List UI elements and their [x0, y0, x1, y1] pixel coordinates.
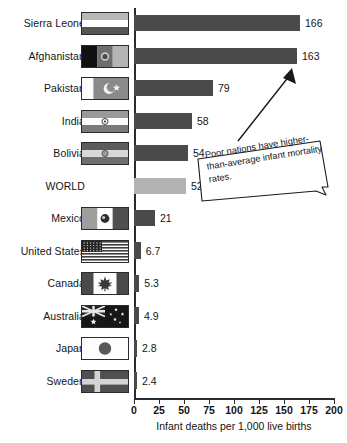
x-tick-label: 75: [203, 404, 215, 416]
x-tick-label: 50: [178, 404, 190, 416]
chart-row: Sweden2.4: [0, 366, 347, 396]
bar: [134, 340, 137, 357]
chart-row: Afghanistan 163: [0, 41, 347, 71]
bar: [134, 48, 297, 64]
x-tick-label: 125: [250, 404, 268, 416]
flag-india-icon: [81, 110, 129, 133]
country-label: Bolivia: [0, 138, 85, 168]
bar: [134, 242, 141, 259]
bar: [134, 275, 139, 292]
bar-value-label: 4.9: [144, 301, 159, 331]
bar-value-label: 6.7: [146, 236, 161, 266]
chart-row: Mexico 21: [0, 203, 347, 233]
bar: [134, 307, 139, 324]
flag-canada-icon: [81, 272, 129, 295]
x-tick-label: 25: [153, 404, 165, 416]
country-label: Japan: [0, 333, 85, 363]
flag-afghanistan-icon: [81, 45, 129, 68]
flag-bolivia-icon: [81, 142, 129, 165]
country-label: WORLD: [0, 171, 85, 201]
country-label: Sierra Leone: [0, 8, 85, 38]
country-label: Pakistan: [0, 73, 85, 103]
bar-value-label: 58: [197, 106, 209, 136]
flag-pakistan-icon: [81, 77, 129, 100]
country-label: Canada: [0, 268, 85, 298]
flag-japan-icon: [81, 337, 129, 360]
chart-row: United States6.7: [0, 236, 347, 266]
bar: [134, 178, 186, 194]
x-tick-label: 0: [131, 404, 137, 416]
bar: [134, 80, 213, 96]
chart-row: Canada 5.3: [0, 268, 347, 298]
bar: [134, 15, 300, 31]
country-label: United States: [0, 236, 85, 266]
bar: [134, 372, 137, 389]
flag-sweden-icon: [81, 370, 129, 393]
flag-mexico-icon: [81, 207, 129, 230]
bar-value-label: 5.3: [144, 268, 159, 298]
flag-united-states-icon: [81, 240, 129, 263]
chart-row: Japan2.8: [0, 333, 347, 363]
chart-row: India 58: [0, 106, 347, 136]
chart-row: Australia4.9: [0, 301, 347, 331]
flag-australia-icon: [81, 305, 129, 328]
chart-row: Pakistan 79: [0, 73, 347, 103]
country-label: Afghanistan: [0, 41, 85, 71]
chart-row: Sierra Leone166: [0, 8, 347, 38]
bar-value-label: 163: [302, 41, 320, 71]
country-label: Mexico: [0, 203, 85, 233]
bar: [134, 210, 155, 226]
bar-value-label: 79: [218, 73, 230, 103]
infant-mortality-bar-chart: Sierra Leone166Afghanistan 163Pakistan 7…: [0, 0, 347, 443]
x-tick-label: 150: [275, 404, 293, 416]
bar: [134, 145, 188, 161]
bar-value-label: 2.8: [142, 333, 157, 363]
flag-sierra-leone-icon: [81, 12, 129, 35]
country-label: Sweden: [0, 366, 85, 396]
country-label: Australia: [0, 301, 85, 331]
country-label: India: [0, 106, 85, 136]
bar-value-label: 21: [160, 203, 172, 233]
bar: [134, 113, 192, 129]
bar-value-label: 166: [305, 8, 323, 38]
bar-value-label: 2.4: [142, 366, 157, 396]
callout-box: Poor nations have higher-than-average in…: [196, 139, 328, 201]
x-tick-label: 200: [325, 404, 343, 416]
x-tick-label: 175: [300, 404, 318, 416]
x-axis-title: Infant deaths per 1,000 live births: [134, 420, 334, 432]
x-tick-label: 100: [225, 404, 243, 416]
